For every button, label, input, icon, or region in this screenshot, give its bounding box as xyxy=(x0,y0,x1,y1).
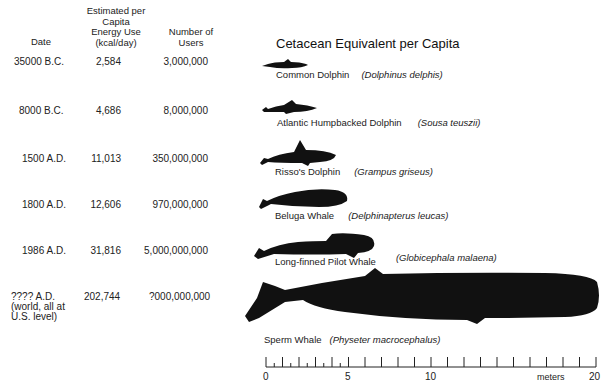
species-label: Beluga Whale(Delphinapterus leucas) xyxy=(275,210,449,221)
species-label: Atlantic Humpbacked Dolphin(Sousa teuszi… xyxy=(277,117,480,128)
scale-tick-0: 0 xyxy=(263,371,269,382)
row-date: ???? A.D. (world, all at U.S. level) xyxy=(11,292,65,322)
row-date: 1500 A.D. xyxy=(22,153,66,164)
species-label: Risso's Dolphin(Grampus griseus) xyxy=(275,166,433,177)
row-energy: 11,013 xyxy=(80,153,121,164)
rissos-dolphin-silhouette-icon xyxy=(260,140,340,167)
row-users: ?000,000,000 xyxy=(149,291,210,302)
common-name: Atlantic Humpbacked Dolphin xyxy=(277,117,402,128)
row-users: 3,000,000 xyxy=(140,56,208,67)
row-date: 1800 A.D. xyxy=(22,199,66,210)
latin-name: (Sousa teuszii) xyxy=(418,117,481,128)
humpbacked-dolphin-silhouette-icon xyxy=(262,99,318,115)
row-date: 8000 B.C. xyxy=(19,105,63,116)
scale-bar xyxy=(266,354,601,368)
row-users: 8,000,000 xyxy=(140,105,208,116)
header-date: Date xyxy=(16,37,66,48)
row-date: 1986 A.D. xyxy=(22,245,66,256)
common-name: Long-finned Pilot Whale xyxy=(275,256,376,267)
scale-tick-5: 5 xyxy=(345,371,351,382)
latin-name: (Dolphinus delphis) xyxy=(361,69,442,80)
row-energy: 31,816 xyxy=(80,245,121,256)
scale-tick-20: 20 xyxy=(589,371,600,382)
header-users: Number of Users xyxy=(156,27,226,48)
sperm-whale-silhouette-icon xyxy=(245,268,600,326)
row-users: 350,000,000 xyxy=(140,153,208,164)
row-users: 970,000,000 xyxy=(140,199,208,210)
latin-name: (Physeter macrocephalus) xyxy=(330,334,441,345)
row-energy: 2,584 xyxy=(80,56,121,67)
beluga-silhouette-icon xyxy=(259,187,349,210)
latin-name: (Globicephala malaena) xyxy=(396,252,497,263)
common-name: Sperm Whale xyxy=(264,334,322,345)
row-date: 35000 B.C. xyxy=(14,56,64,67)
header-energy: Estimated per Capita Energy Use (kcal/da… xyxy=(86,6,146,48)
row-energy: 202,744 xyxy=(84,291,120,302)
latin-name: (Delphinapterus leucas) xyxy=(348,210,448,221)
row-energy: 4,686 xyxy=(80,105,121,116)
species-label: Common Dolphin(Dolphinus delphis) xyxy=(276,69,443,80)
figure-title: Cetacean Equivalent per Capita xyxy=(276,36,460,51)
common-name: Risso's Dolphin xyxy=(275,166,340,177)
common-name: Common Dolphin xyxy=(276,69,349,80)
latin-name: (Grampus griseus) xyxy=(354,166,433,177)
row-date-line3: U.S. level) xyxy=(11,312,65,322)
species-label: Sperm Whale(Physeter macrocephalus) xyxy=(264,334,440,345)
row-energy: 12,606 xyxy=(80,199,121,210)
common-name: Beluga Whale xyxy=(275,210,334,221)
row-users: 5,000,000,000 xyxy=(140,245,208,256)
species-label: Long-finned Pilot Whale(Globicephala mal… xyxy=(275,256,497,267)
scale-unit: meters xyxy=(537,372,565,383)
scale-tick-10: 10 xyxy=(425,371,436,382)
